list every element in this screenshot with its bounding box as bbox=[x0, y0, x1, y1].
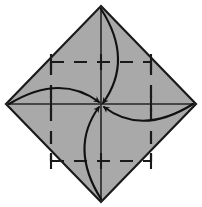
crease-lines-group bbox=[6, 6, 196, 202]
origami-diagram-container: Origami fold step: bring four corners to… bbox=[0, 0, 202, 207]
origami-diagram-svg bbox=[0, 0, 202, 207]
